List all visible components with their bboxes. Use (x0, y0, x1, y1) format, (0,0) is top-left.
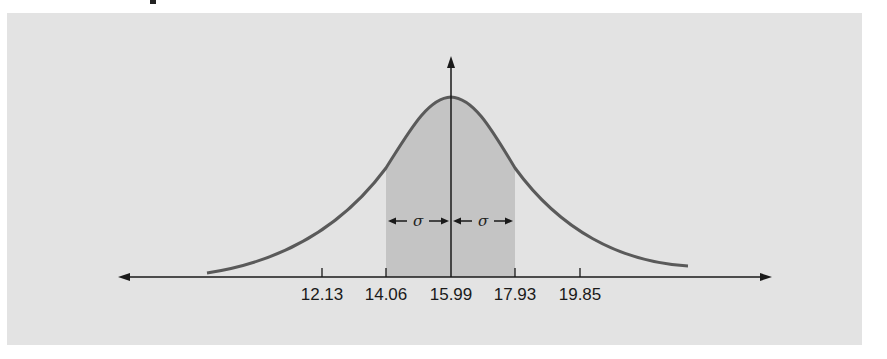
y-axis-up-arrow-icon (447, 56, 455, 68)
tick-label: 12.13 (301, 285, 344, 304)
x-axis-right-arrow-icon (760, 273, 772, 281)
tick-label: 19.85 (559, 285, 602, 304)
x-axis-left-arrow-icon (118, 273, 130, 281)
sigma-label: σ (413, 212, 424, 230)
tick-label: 14.06 (365, 285, 408, 304)
x-tick-labels: 12.13 14.06 15.99 17.93 19.85 (301, 285, 602, 304)
tick-label: 15.99 (430, 285, 473, 304)
normal-distribution-diagram: 12.13 14.06 15.99 17.93 19.85 σ σ (0, 0, 887, 359)
tick-label: 17.93 (494, 285, 537, 304)
sigma-label: σ (478, 212, 489, 230)
